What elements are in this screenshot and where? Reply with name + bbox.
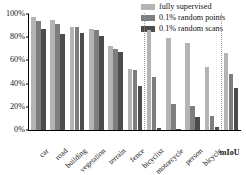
- group-separator: [221, 13, 222, 130]
- bar: [224, 53, 229, 130]
- bar: [185, 43, 190, 130]
- y-axis-tick-label: 40%: [10, 79, 25, 87]
- bar-group: [205, 14, 220, 130]
- x-axis-line: [28, 130, 241, 131]
- bar: [205, 67, 210, 130]
- bar: [166, 38, 171, 130]
- bar: [89, 29, 94, 130]
- y-axis-tick-label: 0%: [14, 126, 25, 134]
- bar: [138, 86, 143, 130]
- y-axis-tick-mark: [26, 83, 29, 84]
- bar-group: [50, 14, 65, 130]
- bar: [99, 36, 104, 130]
- plot-area: 0%20%40%60%80%100%carroadbuildingvegetat…: [28, 14, 240, 130]
- bar: [50, 20, 55, 130]
- x-axis-tick-label: terrain: [107, 147, 127, 166]
- bar: [234, 88, 239, 130]
- bar: [31, 17, 36, 130]
- y-axis-tick-label: 60%: [10, 56, 25, 64]
- bar: [133, 70, 138, 130]
- bar: [190, 106, 195, 130]
- bar-group: [147, 14, 162, 130]
- bar-group: [166, 14, 181, 130]
- legend-label-fully-supervised: fully supervised: [159, 3, 212, 11]
- bar: [157, 128, 162, 130]
- bar: [171, 104, 176, 130]
- y-axis-tick-mark: [26, 14, 29, 15]
- y-axis-tick-mark: [26, 130, 29, 131]
- bar: [195, 117, 200, 130]
- bar: [41, 29, 46, 130]
- bar: [128, 69, 133, 130]
- bar: [152, 77, 157, 130]
- bar: [80, 33, 85, 130]
- bar: [94, 30, 99, 130]
- legend-swatch-fully-supervised: [141, 4, 155, 11]
- bar: [113, 49, 118, 130]
- bar-group: [89, 14, 104, 130]
- bar: [70, 27, 75, 130]
- x-axis-tick-label: mIoU: [220, 149, 240, 157]
- y-axis-tick-label: 20%: [10, 103, 25, 111]
- y-axis-tick-mark: [26, 106, 29, 107]
- y-axis-tick-label: 100%: [6, 10, 25, 18]
- group-separator: [144, 13, 145, 130]
- bar: [36, 21, 41, 130]
- y-axis-tick-label: 80%: [10, 33, 25, 41]
- bar: [147, 30, 152, 130]
- bar-group: [108, 14, 123, 130]
- bar-chart: fully supervised 0.1% random points 0.1%…: [0, 0, 246, 175]
- bar: [60, 34, 65, 130]
- bar-group: [185, 14, 200, 130]
- x-axis-tick-label: car: [38, 147, 50, 159]
- bar: [176, 129, 181, 130]
- bar-group: [70, 14, 85, 130]
- bar: [210, 116, 215, 130]
- bar: [215, 127, 220, 130]
- legend-item-fully-supervised: fully supervised: [141, 2, 225, 12]
- bar-group: [224, 14, 239, 130]
- bar: [108, 46, 113, 130]
- bar-group: [128, 14, 143, 130]
- bar: [55, 24, 60, 130]
- x-axis-tick-label: person: [184, 147, 204, 166]
- y-axis-tick-mark: [26, 60, 29, 61]
- bar: [118, 52, 123, 130]
- bar: [75, 27, 80, 130]
- bar-group: [31, 14, 46, 130]
- y-axis-tick-mark: [26, 37, 29, 38]
- bar: [229, 74, 234, 130]
